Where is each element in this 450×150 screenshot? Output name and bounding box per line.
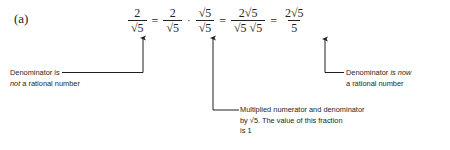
callout-line: is 1: [240, 126, 364, 137]
fraction-2root5-over-root5root5: 2√5 √5 √5: [231, 7, 265, 34]
leader-line-middle: [213, 38, 239, 110]
callout-text: Multiplied numerator and denominator: [240, 105, 364, 114]
fraction-2root5-over-5: 2√5 5: [282, 7, 307, 34]
fraction-numerator: 2√5: [236, 7, 261, 20]
fraction-2-over-root5-second: 2 √5: [163, 7, 182, 34]
callout-text: is 1: [240, 126, 252, 135]
equals-sign-1: =: [149, 15, 162, 27]
callout-text-emphasis: not: [10, 79, 20, 88]
fraction-denominator: √5: [196, 20, 215, 34]
callout-line: Multiplied numerator and denominator: [240, 105, 364, 116]
fraction-denominator: √5: [128, 20, 147, 34]
multiplied-by-one-callout: Multiplied numerator and denominator by …: [240, 105, 364, 137]
callout-line: by √5. The value of this fraction: [240, 116, 364, 127]
fraction-denominator: √5: [163, 20, 182, 34]
fraction-numerator: 2: [131, 7, 143, 20]
equals-sign-3: =: [267, 15, 280, 27]
callout-line: not a rational number: [10, 79, 80, 90]
fraction-numerator: √5: [196, 7, 215, 20]
callout-line: Denominator is: [10, 68, 80, 79]
callout-line: a rational number: [346, 79, 411, 90]
callout-text-emphasis: is now: [390, 68, 411, 77]
callout-text: by √5. The value of this fraction: [240, 116, 343, 125]
leader-line-right: [325, 39, 344, 73]
callout-text: a rational number: [346, 79, 404, 88]
fraction-root5-over-root5: √5 √5: [196, 7, 215, 34]
part-label: (a): [14, 11, 28, 27]
fraction-numerator: 2: [167, 7, 179, 20]
callout-line: Denominator is now: [346, 68, 411, 79]
multiplication-dot: ·: [184, 15, 194, 26]
fraction-denominator: √5 √5: [231, 20, 265, 34]
figure-canvas: (a) 2 √5 = 2 √5 · √5 √5 = 2√5 √5 √5 = 2√…: [0, 0, 450, 150]
fraction-denominator: 5: [288, 20, 300, 34]
denominator-not-rational-callout: Denominator is not a rational number: [10, 68, 80, 89]
callout-text: Denominator is: [10, 68, 60, 77]
equation: 2 √5 = 2 √5 · √5 √5 = 2√5 √5 √5 = 2√5 5: [126, 7, 309, 34]
denominator-now-rational-callout: Denominator is now a rational number: [346, 68, 411, 89]
fraction-numerator: 2√5: [282, 7, 307, 20]
callout-text: a rational number: [20, 79, 80, 88]
fraction-2-over-root5: 2 √5: [128, 7, 147, 34]
callout-text: Denominator: [346, 68, 390, 77]
equals-sign-2: =: [216, 15, 229, 27]
